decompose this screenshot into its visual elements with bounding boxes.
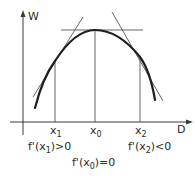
annotation-center-post: )=0 [95, 156, 116, 169]
x-axis-label: D [177, 124, 185, 135]
x1-sub: 1 [57, 130, 62, 139]
x-axis-arrow-icon [186, 120, 193, 125]
annotation-right: f'(x2)<0 [128, 141, 171, 155]
annotation-center: f'(x0)=0 [72, 157, 115, 171]
annotation-right-post: )<0 [151, 140, 172, 153]
x0-sub: 0 [97, 130, 102, 139]
x2-sub: 2 [142, 130, 147, 139]
x0-label: x0 [90, 125, 102, 139]
y-axis-label: W [28, 11, 39, 22]
annotation-left-pre: f'(x [28, 140, 46, 153]
annotation-center-pre: f'(x [72, 156, 90, 169]
x1-label: x1 [50, 125, 62, 139]
y-axis-label-text: W [28, 10, 39, 23]
annotation-left-post: )>0 [51, 140, 72, 153]
tangent-x2 [112, 12, 163, 101]
derivative-diagram: W D x1 x0 x2 f'(x1)>0 f'(x2)<0 f'(x0)=0 [0, 0, 195, 180]
y-axis-arrow-icon [21, 10, 26, 17]
x2-label: x2 [135, 125, 147, 139]
annotation-left: f'(x1)>0 [28, 141, 71, 155]
annotation-right-pre: f'(x [128, 140, 146, 153]
x-axis-label-text: D [177, 123, 185, 136]
